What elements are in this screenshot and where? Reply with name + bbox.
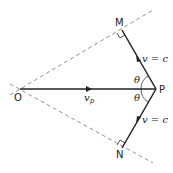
label-vp: vp	[84, 92, 95, 105]
arrow-np-icon	[136, 116, 141, 124]
angle-arc-lower-icon	[141, 89, 148, 102]
label-n: N	[116, 149, 123, 160]
label-p: P	[159, 84, 165, 95]
upper-dashed-line	[10, 10, 153, 95]
label-upper-velocity: v = c	[142, 53, 168, 64]
label-m: M	[115, 17, 124, 28]
label-theta-lower: θ	[134, 92, 140, 103]
lower-dashed-line	[10, 84, 153, 163]
label-theta-upper: θ	[134, 74, 140, 85]
angle-arc-upper-icon	[141, 76, 148, 89]
phase-velocity-diagram: O P M N θ θ vp v = c v = c	[0, 0, 173, 173]
label-o: O	[14, 92, 22, 103]
label-lower-velocity: v = c	[142, 114, 168, 125]
arrow-mp-icon	[136, 55, 141, 62]
